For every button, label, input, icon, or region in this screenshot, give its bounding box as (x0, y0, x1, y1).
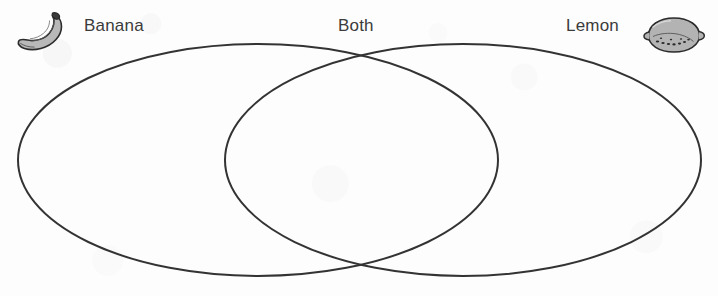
worksheet-canvas: Banana Both Lemon (0, 0, 718, 296)
lemon-icon (641, 12, 707, 58)
banana-icon (14, 10, 74, 54)
label-both: Both (338, 17, 374, 34)
venn-circle-lemon[interactable] (225, 44, 701, 276)
label-lemon: Lemon (566, 17, 619, 34)
label-banana: Banana (84, 17, 144, 34)
venn-diagram (0, 0, 718, 296)
venn-circle-banana[interactable] (18, 44, 498, 276)
